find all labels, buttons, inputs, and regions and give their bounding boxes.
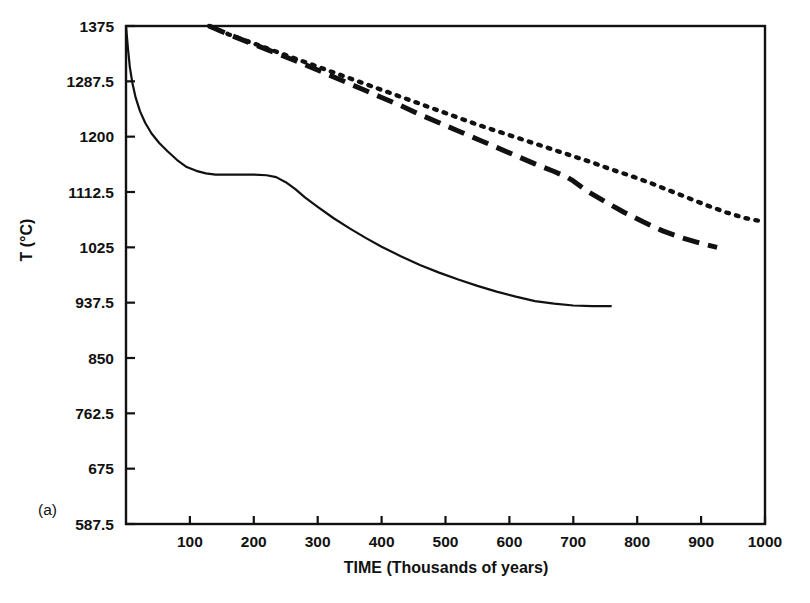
panel-label: (a)	[38, 501, 57, 518]
x-tick-label: 300	[305, 533, 331, 550]
y-tick-label: 1200	[80, 128, 114, 145]
y-tick-label: 850	[88, 350, 114, 367]
y-tick-label: 587.5	[75, 516, 114, 533]
y-tick-label: 1287.5	[67, 73, 115, 90]
x-axis-title: TIME (Thousands of years)	[344, 559, 548, 576]
figure-panel: 1002003004005006007008009001000 587.5675…	[0, 0, 810, 603]
y-tick-label: 937.5	[75, 294, 114, 311]
x-tick-label: 900	[688, 533, 714, 550]
x-tick-label: 100	[177, 533, 203, 550]
x-tick-label: 700	[560, 533, 586, 550]
y-tick-label: 762.5	[75, 405, 114, 422]
x-tick-label: 200	[241, 533, 267, 550]
x-tick-label: 500	[433, 533, 459, 550]
y-tick-label: 675	[88, 460, 114, 477]
y-tick-label: 1112.5	[68, 184, 114, 201]
y-tick-label: 1025	[80, 239, 115, 256]
x-tick-label: 1000	[748, 533, 782, 550]
x-tick-label: 400	[369, 533, 395, 550]
y-axis-title: T (°C)	[18, 219, 35, 262]
line-chart: 1002003004005006007008009001000 587.5675…	[0, 0, 810, 603]
y-tick-label: 1375	[80, 18, 115, 35]
x-tick-label: 800	[624, 533, 650, 550]
x-tick-label: 600	[496, 533, 522, 550]
chart-background	[0, 0, 810, 603]
